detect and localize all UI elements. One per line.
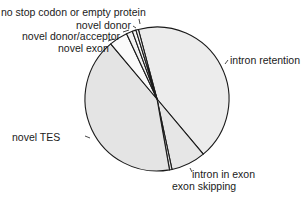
leader-no-stop — [139, 19, 140, 24]
label-no-stop-codon: no stop codon or empty protein — [1, 6, 146, 18]
leader-novel-donor — [133, 26, 136, 28]
label-exon-skipping: exon skipping — [172, 180, 236, 192]
label-novel-exon: novel exon — [58, 42, 109, 54]
leader-intron-retention — [225, 60, 228, 64]
label-novel-tes: novel TES — [12, 131, 60, 143]
label-intron-in-exon: intron in exon — [192, 168, 255, 180]
leader-novel-tes — [85, 136, 90, 138]
label-intron-retention: intron retention — [230, 54, 300, 66]
label-novel-donor-acceptor: novel donor/acceptor — [22, 30, 120, 42]
